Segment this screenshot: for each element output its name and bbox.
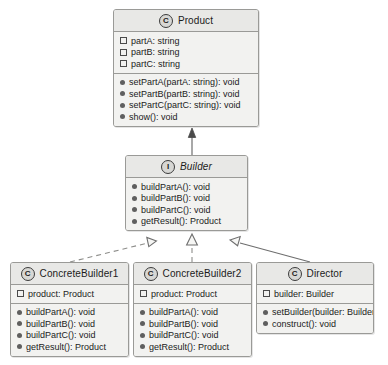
class-box-director[interactable]: C Director builder: Builder setBuilder(b… [256,262,374,334]
operation-row: setPartA(partA: string): void [114,77,258,89]
operation-label: buildPartB(): void [141,193,210,203]
class-header-concretebuilder2: C ConcreteBuilder2 [134,263,251,285]
operation-row: getResult(): Product [11,341,128,353]
attribute-row: builder: Builder [257,288,373,300]
visibility-public-icon [120,80,125,85]
visibility-public-icon [120,114,125,119]
attributes-compartment-product: partA: string partB: string partC: strin… [114,32,258,73]
operation-label: getResult(): Product [26,342,106,352]
operations-compartment-builder: buildPartA(): void buildPartB(): void bu… [126,178,247,230]
visibility-public-icon [132,184,137,189]
attribute-row: partA: string [114,35,258,47]
operation-row: buildPartA(): void [126,181,247,193]
operation-label: buildPartB(): void [149,319,218,329]
operation-label: buildPartB(): void [26,319,95,329]
uml-diagram-canvas: C Product partA: string partB: string pa… [0,0,388,365]
attribute-row: partB: string [114,47,258,59]
operation-label: setPartC(partC: string): void [129,100,241,110]
class-name-product: Product [178,15,213,26]
attribute-label: partC: string [131,59,180,69]
operation-label: setBuilder(builder: Builder): void [272,307,374,317]
operation-row: buildPartA(): void [134,307,251,319]
operation-label: setPartB(partB: string): void [129,89,240,99]
class-box-builder[interactable]: I Builder buildPartA(): void buildPartB(… [125,155,248,231]
visibility-public-icon [140,321,145,326]
operation-label: buildPartA(): void [149,307,218,317]
attribute-row: product: Product [11,288,128,300]
visibility-public-icon [132,207,137,212]
operation-row: buildPartC(): void [134,330,251,342]
class-badge-icon: C [21,267,35,281]
visibility-public-icon [132,196,137,201]
class-header-builder: I Builder [126,156,247,178]
visibility-private-icon [263,290,270,297]
visibility-private-icon [140,290,147,297]
visibility-private-icon [120,49,127,56]
visibility-public-icon [132,219,137,224]
visibility-public-icon [120,103,125,108]
operation-label: show(): void [129,112,178,122]
visibility-private-icon [17,290,24,297]
edge-builder-to-product [188,128,195,155]
visibility-public-icon [17,310,22,315]
operation-label: getResult(): Product [149,342,229,352]
operation-row: buildPartB(): void [11,318,128,330]
operation-label: buildPartA(): void [141,182,210,192]
visibility-public-icon [17,333,22,338]
attributes-compartment-director: builder: Builder [257,285,373,303]
class-name-director: Director [307,268,343,279]
operation-label: setPartA(partA: string): void [129,77,240,87]
visibility-private-icon [120,37,127,44]
interface-badge-icon: I [161,160,175,174]
operation-row: getResult(): Product [126,216,247,228]
operation-row: buildPartC(): void [11,330,128,342]
operation-row: setPartB(partB: string): void [114,88,258,100]
visibility-public-icon [140,310,145,315]
visibility-public-icon [17,344,22,349]
operations-compartment-product: setPartA(partA: string): void setPartB(p… [114,73,258,126]
operation-row: buildPartB(): void [134,318,251,330]
class-badge-icon: C [144,267,158,281]
attribute-row: partC: string [114,58,258,70]
operation-label: buildPartC(): void [149,330,219,340]
edge-concretebuilder2-realizes-builder [187,234,198,262]
visibility-public-icon [140,344,145,349]
visibility-public-icon [263,321,268,326]
attribute-label: builder: Builder [274,289,334,299]
attribute-label: product: Product [151,289,217,299]
class-name-concretebuilder2: ConcreteBuilder2 [163,268,242,279]
operation-row: setPartC(partC: string): void [114,100,258,112]
visibility-public-icon [140,333,145,338]
class-header-product: C Product [114,10,258,32]
operation-label: buildPartA(): void [26,307,95,317]
edge-director-to-builder [230,237,310,262]
operation-row: getResult(): Product [134,341,251,353]
class-box-concretebuilder1[interactable]: C ConcreteBuilder1 product: Product buil… [10,262,129,357]
visibility-public-icon [263,310,268,315]
operation-label: buildPartC(): void [141,205,211,215]
attribute-row: product: Product [134,288,251,300]
attribute-label: partB: string [131,47,180,57]
attributes-compartment-concretebuilder2: product: Product [134,285,251,303]
class-badge-icon: C [159,14,173,28]
class-box-product[interactable]: C Product partA: string partB: string pa… [113,9,259,127]
operation-row: setBuilder(builder: Builder): void [257,307,373,319]
visibility-public-icon [17,321,22,326]
operation-label: construct(): void [272,319,336,329]
operations-compartment-director: setBuilder(builder: Builder): void const… [257,303,373,333]
class-name-concretebuilder1: ConcreteBuilder1 [40,268,119,279]
operation-row: construct(): void [257,318,373,330]
attributes-compartment-concretebuilder1: product: Product [11,285,128,303]
operation-row: buildPartC(): void [126,204,247,216]
class-name-builder: Builder [180,161,212,172]
class-box-concretebuilder2[interactable]: C ConcreteBuilder2 product: Product buil… [133,262,252,357]
class-badge-icon: C [288,267,302,281]
operation-row: show(): void [114,111,258,123]
operations-compartment-concretebuilder2: buildPartA(): void buildPartB(): void bu… [134,303,251,356]
edge-concretebuilder1-realizes-builder [70,237,157,262]
operations-compartment-concretebuilder1: buildPartA(): void buildPartB(): void bu… [11,303,128,356]
operation-row: buildPartA(): void [11,307,128,319]
class-header-director: C Director [257,263,373,285]
visibility-public-icon [120,91,125,96]
class-header-concretebuilder1: C ConcreteBuilder1 [11,263,128,285]
